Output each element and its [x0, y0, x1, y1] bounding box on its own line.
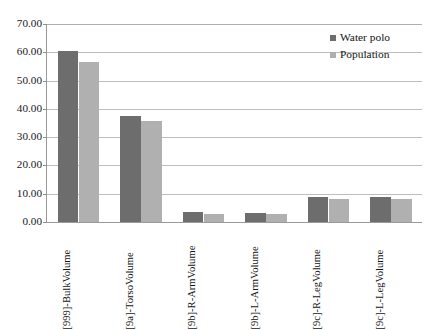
y-axis-tick-label: 30.00	[0, 132, 42, 143]
bar[interactable]	[391, 199, 412, 222]
bar-group	[110, 24, 173, 222]
x-axis-label-slot: [9a]-TorsoVolume	[110, 226, 173, 330]
x-axis-tick-label: [9c]-L-LegVolume	[375, 250, 386, 330]
bar-group	[172, 24, 235, 222]
bar[interactable]	[141, 121, 162, 222]
x-axis-tick-label: [9b]-R-ArmVolume	[188, 246, 199, 330]
x-axis-tick-label: [999]-BulkVolume	[63, 250, 74, 330]
y-axis-tick-label: 20.00	[0, 160, 42, 171]
y-axis-tick-label: 10.00	[0, 188, 42, 199]
x-axis-label-slot: [9b]-R-ArmVolume	[172, 226, 235, 330]
x-axis-label-slot: [9c]-R-LegVolume	[297, 226, 360, 330]
y-axis-tick-label: 50.00	[0, 75, 42, 86]
y-axis-tick	[43, 222, 47, 223]
legend-label-water-polo: Water polo	[340, 32, 390, 43]
x-axis-labels: [999]-BulkVolume[9a]-TorsoVolume[9b]-R-A…	[47, 226, 421, 330]
bar[interactable]	[329, 199, 350, 222]
x-axis-label-slot: [9c]-L-LegVolume	[360, 226, 423, 330]
x-axis-label-slot: [9b]-L-ArmVolume	[235, 226, 298, 330]
bar[interactable]	[58, 51, 79, 222]
x-axis-label-slot: [999]-BulkVolume	[47, 226, 110, 330]
x-axis-tick-label: [9b]-L-ArmVolume	[250, 247, 261, 330]
legend: Water polo Population	[330, 30, 434, 64]
bar[interactable]	[245, 213, 266, 222]
bar-group	[235, 24, 298, 222]
legend-item[interactable]: Water polo	[330, 30, 434, 45]
y-axis-tick-label: 60.00	[0, 47, 42, 58]
bar[interactable]	[204, 214, 225, 222]
bar[interactable]	[79, 62, 100, 222]
x-axis-tick-label: [9a]-TorsoVolume	[125, 253, 136, 330]
y-axis-tick-label: 0.00	[0, 216, 42, 227]
x-axis-tick-label: [9c]-R-LegVolume	[313, 250, 324, 330]
y-axis-tick-label: 70.00	[0, 18, 42, 29]
legend-item[interactable]: Population	[330, 47, 434, 62]
bar[interactable]	[370, 197, 391, 222]
bar[interactable]	[308, 197, 329, 222]
bar[interactable]	[183, 212, 204, 222]
bar-group	[47, 24, 110, 222]
bar[interactable]	[120, 116, 141, 222]
y-axis-labels: 70.0060.0050.0040.0030.0020.0010.000.00	[0, 24, 42, 222]
legend-swatch-water-polo	[330, 35, 336, 41]
y-axis-tick-label: 40.00	[0, 103, 42, 114]
bar[interactable]	[266, 214, 287, 222]
legend-swatch-population	[330, 52, 336, 58]
bar-chart: 70.0060.0050.0040.0030.0020.0010.000.00 …	[0, 0, 437, 330]
legend-label-population: Population	[340, 49, 389, 60]
